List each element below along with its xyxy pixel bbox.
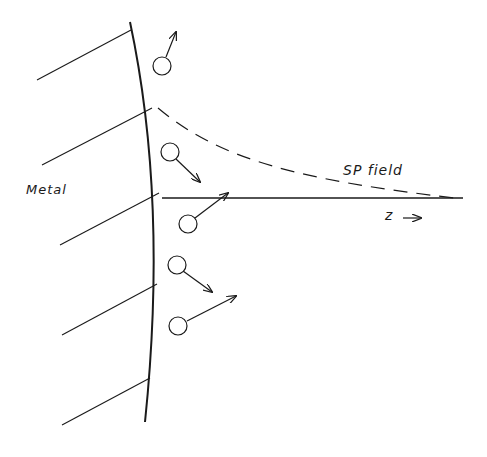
molecule-dipole [168, 256, 212, 292]
molecule-dipole [161, 143, 200, 182]
molecule-circle-icon [161, 143, 179, 161]
hatch-line [62, 284, 157, 335]
metal-surface-boundary [130, 22, 154, 422]
hatch-line [37, 30, 131, 80]
dipole-arrow-icon [183, 271, 212, 292]
molecule-circle-icon [168, 256, 186, 274]
molecules [153, 32, 236, 335]
dipole-arrow-icon [166, 32, 176, 57]
diagram-drawing [0, 0, 487, 457]
dipole-arrow-icon [195, 193, 228, 218]
dipole-arrow-icon [187, 296, 236, 321]
molecule-circle-icon [179, 215, 197, 233]
hatch-line [42, 108, 152, 165]
hatch-line [62, 378, 150, 425]
molecule-dipole [179, 193, 228, 233]
molecule-dipole [153, 32, 176, 75]
sp-field-label: SP field [343, 162, 403, 178]
metal-label: Metal [26, 182, 67, 197]
molecule-circle-icon [153, 57, 171, 75]
dipole-arrow-icon [176, 159, 200, 182]
z-axis-label: z [385, 207, 393, 223]
molecule-dipole [169, 296, 236, 335]
sp-field-decay-curve [158, 108, 455, 198]
metal-hatching [37, 30, 159, 425]
molecule-circle-icon [169, 317, 187, 335]
sp-field-diagram: Metal SP field z [0, 0, 487, 457]
hatch-line [60, 193, 159, 245]
